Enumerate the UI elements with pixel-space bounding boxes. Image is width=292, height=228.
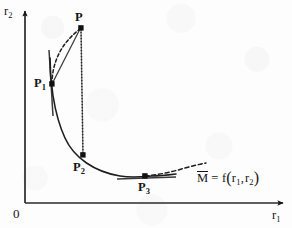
equation-m-with-overbar: M bbox=[197, 171, 208, 185]
equation-close-paren: ) bbox=[254, 169, 260, 186]
equation-open-paren: ( bbox=[226, 169, 232, 186]
point-label-P3: P3 bbox=[138, 181, 150, 194]
point-label-P: P bbox=[75, 11, 83, 24]
equation-comma: , bbox=[241, 171, 244, 185]
origin-label: 0 bbox=[13, 207, 20, 220]
equation-annotation: M= f(r1,r2) bbox=[197, 169, 259, 185]
x-axis-label-subscript: 1 bbox=[276, 214, 280, 224]
point-label-P3-subscript: 3 bbox=[146, 186, 150, 196]
equation-equals-f: = f bbox=[211, 171, 226, 185]
chord-p1-to-p bbox=[52, 29, 80, 84]
x-axis-label: r1 bbox=[272, 209, 280, 222]
point-marker-P bbox=[78, 25, 83, 30]
projection-line-p-to-p2 bbox=[81, 29, 83, 155]
point-label-P1-subscript: 1 bbox=[42, 82, 46, 92]
y-axis-label: r2 bbox=[4, 5, 12, 18]
point-label-P2-subscript: 2 bbox=[81, 166, 85, 176]
point-marker-P1 bbox=[49, 81, 54, 86]
point-label-P2-text: P bbox=[73, 160, 81, 174]
point-label-P1: P1 bbox=[34, 77, 46, 90]
point-marker-P3 bbox=[142, 173, 147, 178]
point-label-P3-text: P bbox=[138, 180, 146, 194]
figure-container: r2 r1 0 P P1 P2 P3 M= f(r1,r2) bbox=[0, 0, 292, 228]
y-axis-label-subscript: 2 bbox=[8, 10, 12, 20]
point-label-P2: P2 bbox=[73, 161, 85, 174]
equation-r1-subscript: 1 bbox=[236, 177, 240, 187]
objective-curve bbox=[50, 58, 176, 177]
point-label-P-text: P bbox=[75, 10, 83, 24]
point-label-P1-text: P bbox=[34, 76, 42, 90]
point-marker-P2 bbox=[80, 152, 85, 157]
